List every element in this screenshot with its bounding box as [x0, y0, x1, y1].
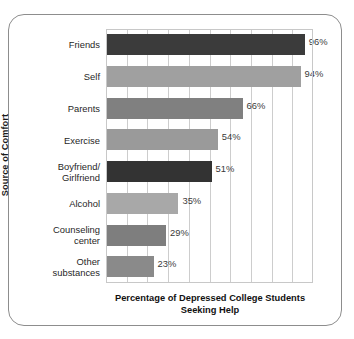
bar-value-label: 66%	[247, 100, 266, 111]
bar-row: 54%	[106, 124, 313, 156]
y-axis-tick-label-line: Friends	[22, 39, 100, 50]
y-axis-tick-label: Exercise	[22, 135, 100, 146]
y-axis-tick-label-line: Parents	[22, 103, 100, 114]
y-axis-tick-label: Friends	[22, 39, 100, 50]
y-axis-tick-label: Alcohol	[22, 198, 100, 209]
bar-row: 51%	[106, 156, 313, 188]
y-axis-tick-label-line: Self	[22, 71, 100, 82]
y-axis-tick-label-line: Girlfriend	[22, 172, 100, 183]
x-axis-title-line2: Seeking Help	[86, 304, 334, 316]
bar	[106, 129, 218, 150]
bar-row: 35%	[106, 188, 313, 220]
bar	[106, 193, 178, 214]
bar-row: 66%	[106, 93, 313, 125]
bar-value-label: 54%	[222, 131, 241, 142]
bar	[106, 98, 243, 119]
y-axis-tick-label-line: substances	[22, 267, 100, 278]
y-axis-tick-label-line: Alcohol	[22, 198, 100, 209]
bar	[106, 66, 301, 87]
bar-value-label: 35%	[182, 195, 201, 206]
y-axis-tick-label: Boyfriend/Girlfriend	[22, 161, 100, 183]
chart-figure: Source of Comfort FriendsSelfParentsExer…	[0, 0, 354, 339]
bar-row: 23%	[106, 251, 313, 283]
plot-area: 96%94%66%54%51%35%29%23%	[106, 29, 313, 283]
y-axis-tick-label-line: center	[22, 235, 100, 246]
bar-value-label: 51%	[216, 163, 235, 174]
bar-row: 96%	[106, 29, 313, 61]
y-axis-tick-label: Parents	[22, 103, 100, 114]
y-axis-tick-labels: FriendsSelfParentsExerciseBoyfriend/Girl…	[22, 29, 100, 283]
x-axis-title-line1: Percentage of Depressed College Students	[86, 292, 334, 304]
bar-row: 29%	[106, 220, 313, 252]
y-axis-tick-label-line: Boyfriend/	[22, 161, 100, 172]
y-axis-tick-label-line: Counseling	[22, 224, 100, 235]
bar	[106, 34, 305, 55]
y-axis-tick-label: Counselingcenter	[22, 224, 100, 246]
bar	[106, 225, 166, 246]
bar	[106, 256, 154, 277]
y-axis-tick-label-line: Other	[22, 256, 100, 267]
bar-value-label: 96%	[309, 36, 328, 47]
x-axis-title: Percentage of Depressed College Students…	[86, 292, 334, 317]
bar-value-label: 94%	[305, 68, 324, 79]
bar	[106, 161, 212, 182]
y-axis-title: Source of Comfort	[0, 95, 16, 215]
bar-row: 94%	[106, 61, 313, 93]
bar-value-label: 29%	[170, 227, 189, 238]
bar-value-label: 23%	[158, 258, 177, 269]
y-axis-tick-label-line: Exercise	[22, 135, 100, 146]
y-axis-tick-label: Self	[22, 71, 100, 82]
y-axis-tick-label: Othersubstances	[22, 256, 100, 278]
